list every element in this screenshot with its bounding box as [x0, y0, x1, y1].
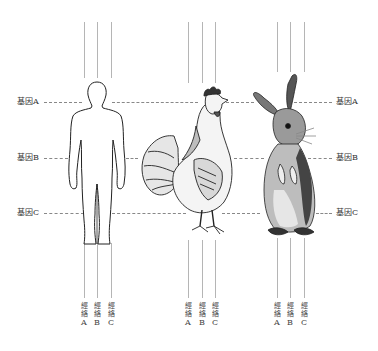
meridian-label-rabbit-a: 經絡A — [271, 302, 283, 328]
meridian-label-rabbit-c: 經絡C — [298, 302, 310, 328]
meridian-label-rooster-b: 經絡B — [196, 302, 208, 328]
rabbit-figure-icon — [250, 72, 330, 238]
meridian-label-human-a: 經絡A — [78, 302, 90, 328]
meridian-label-rabbit-b: 經絡B — [284, 302, 296, 328]
gene-b-label-left: 基因B — [17, 153, 39, 163]
meridian-label-rooster-c: 經絡C — [209, 302, 221, 328]
human-figure-icon — [60, 80, 130, 246]
meridian-label-rooster-a: 經絡A — [182, 302, 194, 328]
gene-b-label-right: 基因B — [336, 153, 358, 163]
gene-a-label-right: 基因A — [336, 97, 358, 107]
gene-a-label-left: 基因A — [17, 97, 39, 107]
rooster-figure-icon — [136, 86, 240, 238]
meridian-label-human-c: 經絡C — [105, 302, 117, 328]
meridian-label-human-b: 經絡B — [91, 302, 103, 328]
gene-c-label-left: 基因C — [17, 208, 39, 218]
gene-c-label-right: 基因C — [336, 208, 358, 218]
